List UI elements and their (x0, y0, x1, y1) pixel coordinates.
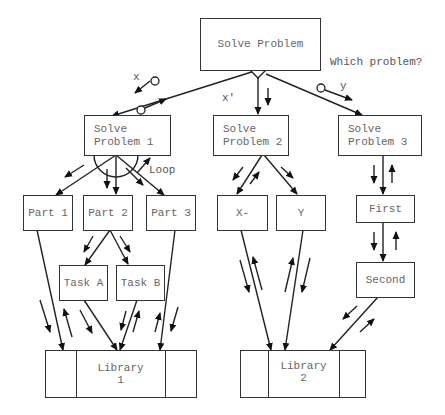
node-solve-problem-3: Solve Problem 3 (338, 115, 422, 156)
node-second: Second (356, 262, 415, 298)
node-part-2: Part 2 (83, 195, 133, 231)
node-task-a: Task A (59, 265, 108, 301)
node-part-1: Part 1 (23, 195, 73, 231)
node-y: Y (276, 195, 326, 231)
node-task-b: Task B (116, 265, 165, 301)
library-1-right-divider (165, 351, 166, 397)
decision-label: Which problem? (330, 56, 422, 68)
node-solve-problem: Solve Problem (200, 18, 321, 71)
node-part-3: Part 3 (146, 195, 196, 231)
library-2-right-divider (339, 351, 340, 397)
structure-chart: Solve Problem Solve Problem 1 Solve Prob… (0, 0, 445, 415)
library-2-label: Library 2 (268, 351, 339, 397)
node-x: X- (217, 195, 268, 231)
param-y-label: y (340, 80, 347, 92)
loop-label: Loop (149, 164, 175, 176)
node-library-2: Library 2 (240, 350, 366, 398)
param-x-label: x (133, 71, 140, 83)
node-solve-problem-1: Solve Problem 1 (84, 115, 171, 156)
library-1-label: Library 1 (76, 351, 165, 397)
node-first: First (356, 195, 415, 223)
param-xprime-label: x' (222, 92, 235, 104)
node-solve-problem-2: Solve Problem 2 (213, 115, 289, 156)
node-library-1: Library 1 (45, 350, 197, 398)
